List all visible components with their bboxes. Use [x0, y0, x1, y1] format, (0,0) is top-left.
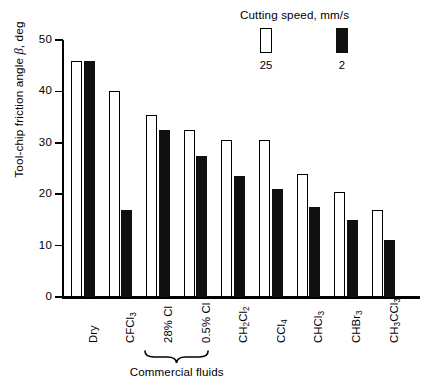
x-label-CHCl3: CHCl3 [313, 311, 324, 343]
x-label-05Cl: 0.5% Cl [201, 303, 212, 343]
x-label-CH2Cl2: CH2Cl2 [238, 306, 249, 343]
x-label-Dry: Dry [88, 325, 99, 343]
x-label-CHBr3: CHBr3 [351, 310, 362, 343]
x-label-CCl4: CCl4 [276, 319, 287, 343]
x-label-CFCl3: CFCl3 [125, 312, 136, 343]
bar-chart: Cutting speed, mm/s 25 2 01020304050 Too… [0, 0, 428, 389]
commercial-fluids-bracket [144, 350, 209, 364]
x-label-CH3CCl3: CH3CCl3 [389, 298, 400, 343]
x-axis-labels: DryCFCl328% Cl0.5% ClCH2Cl2CCl4CHCl3CHBr… [0, 0, 428, 389]
x-label-28Cl: 28% Cl [163, 306, 174, 343]
commercial-fluids-label: Commercial fluids [130, 365, 224, 378]
